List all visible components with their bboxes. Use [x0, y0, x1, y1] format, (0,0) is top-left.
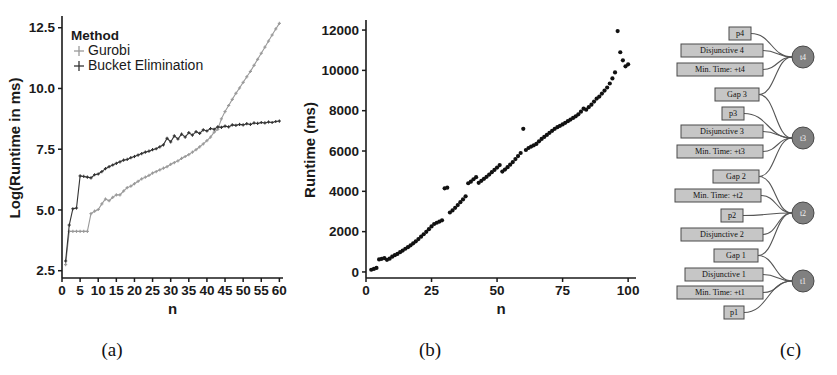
x-tick-label: 50	[236, 283, 251, 298]
x-tick-label: 35	[181, 283, 197, 298]
scatter-point	[626, 62, 630, 66]
x-tick-label: 40	[199, 283, 214, 298]
x-tick-label: 5	[76, 283, 84, 298]
scatter-point	[519, 151, 523, 155]
panel-a-line-chart: 2.55.07.510.012.505101520253035404550556…	[0, 0, 288, 375]
factor-node-label: p4	[736, 29, 744, 38]
scatter-point	[440, 218, 444, 222]
x-tick-label: 75	[555, 283, 571, 298]
scatter-point	[618, 50, 622, 54]
series-bucket-elimination-line	[66, 121, 280, 261]
factor-graph-edge	[763, 138, 792, 152]
panel-c-factor-graph: p4Disjunctive 4Min. Time: +t4Gap 3p3Disj…	[660, 0, 837, 375]
line-chart-svg: 2.55.07.510.012.505101520253035404550556…	[0, 0, 288, 330]
factor-graph-edge	[763, 57, 792, 70]
factor-graph-edge	[759, 177, 792, 214]
factor-node-label: Disjunctive 2	[700, 230, 744, 239]
y-tick-label: 0	[351, 265, 359, 280]
x-tick-label: 10	[91, 283, 106, 298]
variable-node-label: t1	[800, 277, 806, 286]
scatter-point	[474, 175, 478, 179]
factor-node-label: Disjunctive 3	[700, 127, 744, 136]
y-tick-label: 2000	[329, 224, 359, 239]
y-axis-label: Runtime (ms)	[301, 102, 318, 198]
x-axis-label: n	[168, 300, 177, 317]
x-tick-label: 50	[490, 283, 505, 298]
y-tick-label: 7.5	[36, 142, 55, 157]
scatter-chart-svg: 0200040006000800010000120000255075100nRu…	[288, 0, 660, 330]
scatter-point	[498, 163, 502, 167]
panel-b-caption: (b)	[244, 339, 616, 361]
scatter-point	[464, 194, 468, 198]
factor-node-label: Gap 2	[726, 172, 746, 181]
x-tick-label: 45	[218, 283, 234, 298]
x-tick-label: 25	[145, 283, 161, 298]
factor-node-label: Min. Time: +t4	[695, 65, 745, 74]
factor-graph-edge	[763, 213, 792, 235]
x-tick-label: 20	[127, 283, 142, 298]
x-tick-label: 15	[109, 283, 125, 298]
panel-b-scatter-chart: 0200040006000800010000120000255075100nRu…	[288, 0, 660, 375]
x-tick-label: 0	[362, 283, 370, 298]
variable-node-label: t4	[800, 53, 806, 62]
scatter-point	[521, 127, 525, 131]
y-tick-label: 12000	[321, 23, 359, 38]
y-tick-label: 12.5	[29, 20, 56, 35]
y-tick-label: 8000	[329, 103, 359, 118]
scatter-point	[445, 186, 449, 190]
scatter-point	[608, 81, 612, 85]
x-tick-label: 60	[272, 283, 287, 298]
legend-title: Method	[71, 28, 119, 43]
scatter-point	[621, 58, 625, 62]
factor-node-label: Min. Time: +t3	[695, 147, 745, 156]
y-tick-label: 10.0	[29, 81, 55, 96]
legend-entry: Gurobi	[88, 42, 130, 58]
x-tick-label: 30	[163, 283, 178, 298]
factor-graph-svg: p4Disjunctive 4Min. Time: +t4Gap 3p3Disj…	[660, 0, 837, 330]
x-tick-label: 100	[617, 283, 640, 298]
factor-node-label: Min. Time: +t2	[693, 191, 743, 200]
panel-c-caption: (c)	[702, 339, 837, 361]
x-tick-label: 25	[424, 283, 440, 298]
factor-node-label: Disjunctive 4	[700, 46, 744, 55]
variable-node-label: t3	[800, 134, 806, 143]
y-tick-label: 2.5	[36, 263, 55, 278]
x-tick-label: 55	[254, 283, 270, 298]
factor-node-label: Disjunctive 1	[702, 270, 746, 279]
factor-graph-edge	[759, 57, 792, 95]
scatter-point	[616, 29, 620, 33]
y-tick-label: 4000	[329, 184, 359, 199]
y-tick-label: 10000	[321, 63, 359, 78]
scatter-point	[605, 85, 609, 89]
scatter-point	[610, 76, 614, 80]
y-tick-label: 6000	[329, 144, 359, 159]
y-axis-label: Log(Runtime in ms)	[6, 78, 23, 219]
factor-node-label: Gap 3	[727, 90, 747, 99]
factor-node-label: p1	[730, 308, 738, 317]
x-tick-label: 0	[58, 283, 66, 298]
factor-node-label: Gap 1	[726, 251, 746, 260]
panel-a-caption: (a)	[0, 339, 256, 361]
factor-node-label: p2	[728, 211, 736, 220]
scatter-point	[613, 70, 617, 74]
scatter-point	[374, 266, 378, 270]
factor-node-label: Min. Time: +t1	[695, 288, 745, 297]
factor-node-label: p3	[729, 109, 737, 118]
y-tick-label: 5.0	[36, 203, 55, 218]
factor-graph-edge	[759, 138, 792, 177]
x-axis-label: n	[496, 300, 505, 317]
variable-node-label: t2	[800, 209, 806, 218]
legend-entry: Bucket Elimination	[88, 57, 203, 73]
